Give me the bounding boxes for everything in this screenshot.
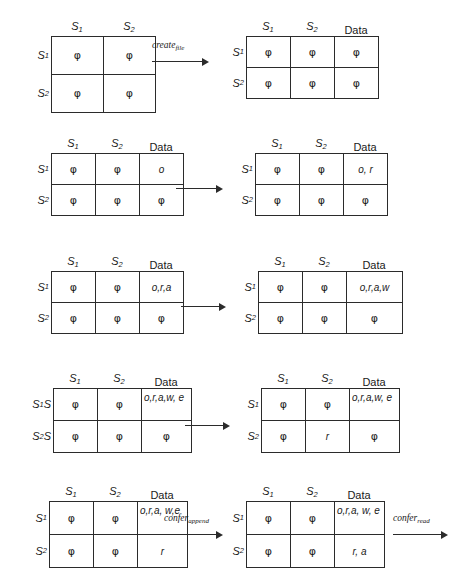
row-header: S2 [33,302,51,333]
row-header-group: S1 S2 [243,388,261,453]
row-header: S2 [240,302,258,333]
row-header-group: S1 S2 [228,36,246,99]
matrix-cell: o, r [344,154,388,185]
transition-arrow-2 [176,181,228,193]
matrix-cell: o,r,a [140,272,184,303]
matrix-row: φ φ o,r,a,w [259,272,403,303]
matrix-cell: φ [291,37,335,68]
matrix-cell: φ [50,535,94,568]
column-header: Data [141,376,191,388]
row-header: S1 [31,501,49,534]
matrix-cell: φ [96,154,140,185]
column-header: S1 [258,255,302,271]
row-header: S2 [237,184,255,215]
column-header: S2 [290,485,334,501]
matrix-cell: φ [247,502,291,535]
matrix-cell: φ [259,303,303,334]
grid-wrapper: S1 S2 φ φ o,r,a φ φ φ [33,271,184,334]
access-control-matrix: φ φ o,r,a,w φ φ φ [258,271,403,334]
row-header-group: S1 S2 [237,153,255,216]
grid-wrapper: S1 S2 φ φ o,r,a,w φ φ φ [240,271,403,334]
matrix-cell: φ [256,154,300,185]
matrix-cell: φ [262,421,306,453]
transition-arrow-4 [185,418,237,430]
row-header: S1 [228,36,246,67]
matrix-row: φ φ φ [247,37,379,68]
matrix-cell: o [140,154,184,185]
matrix-cell: φ [96,272,140,303]
matrix-cell: φ [52,185,96,216]
matrix-cell: φ [262,389,306,421]
transition-arrow-6: conferread [393,515,453,539]
column-header: S1 [51,20,103,36]
matrix-row: φ φ φ [247,68,379,99]
column-header: Data [334,24,378,36]
column-header: S1 [49,485,93,501]
row-header: S1 [237,153,255,184]
grid-wrapper: S1 S2 φ φ φ φ [33,36,156,113]
row-header: S1 [243,388,261,420]
arrow-head-icon [202,58,209,66]
matrix-row2-right: S1 S2 Data S1 S2 φ φ o, r φ φ [237,135,388,216]
matrix-cell: φ [142,421,192,453]
figure-canvas: S1 S2 S1 S2 φ φ φ φ [0,0,454,582]
column-header-group: S1 S2 Data [49,483,188,501]
arrow-head-icon [216,185,223,193]
matrix-cell: φ [335,37,379,68]
matrix-row: φ φ o,r,a,w, e [262,389,400,421]
column-header-group: S1 S2 Data [51,135,184,153]
matrix-row: φ φ [52,37,156,75]
arrow-head-icon [441,531,448,539]
row-header: S2 [228,67,246,98]
arrow-line [152,61,204,62]
row-header: S1 [228,501,246,534]
row-header: S2 [31,534,49,567]
transition-arrow-3 [181,299,233,311]
matrix-row5-right: S1 S2 Data S1 S2 φ φ o,r,a, w, e φ [228,483,385,568]
arrow-line [176,188,218,189]
row-header: S2S [27,420,53,452]
column-header: S2 [95,255,139,271]
matrix-row: φ φ φ [256,185,388,216]
row-header: S1 [240,271,258,302]
row-header-group: S1 S2 [33,36,51,113]
grid-wrapper: S1 S2 φ φ o φ φ φ [33,153,184,216]
row-header-group: S1 S2 [240,271,258,334]
transition-arrow-5: conferappend [164,515,228,539]
matrix-cell: φ [350,421,400,453]
matrix-cell: φ [54,389,98,421]
arrow-head-icon [216,531,223,539]
grid-wrapper: S1 S2 φ φ φ φ φ φ [228,36,379,99]
column-header: Data [349,376,399,388]
matrix-cell: φ [52,303,96,334]
access-control-matrix: φ φ φ φ φ φ [246,36,379,99]
grid-wrapper: S1S S2S φ φ o,r,a,w, e φ φ φ [27,388,192,453]
arrow-line [185,425,225,426]
matrix-cell: φ [52,75,104,113]
row-header-group: S1 S2 [228,501,246,568]
matrix-row: φ φ φ [259,303,403,334]
matrix-row: φ φ o,r,a, w, e [247,502,385,535]
matrix-cell: φ [306,389,350,421]
matrix-cell: φ [140,303,184,334]
arrow-line [164,534,218,535]
matrix-cell: φ [94,502,138,535]
column-header: Data [346,259,402,271]
column-header: S2 [103,20,155,36]
arrow-label: conferread [393,513,430,525]
matrix-cell: φ [104,75,156,113]
column-header-group: S1 S2 Data [246,18,379,36]
matrix-cell: φ [300,185,344,216]
matrix-row3-left: S1 S2 Data S1 S2 φ φ o,r,a φ φ [33,253,184,334]
matrix-cell: φ [104,37,156,75]
matrix-row4-right: S1 S2 Data S1 S2 φ φ o,r,a,w, e φ [243,370,400,453]
column-header-group: S1 S2 Data [258,253,403,271]
row-header: S1 [33,153,51,184]
grid-wrapper: S1 S2 φ φ o,r,a,w, e φ r φ [243,388,400,453]
arrow-line [181,306,221,307]
column-header: S1 [51,137,95,153]
arrow-label: createfile [152,40,184,52]
matrix-cell: φ [52,154,96,185]
column-header-group: S1 S2 Data [261,370,400,388]
arrow-head-icon [223,422,230,430]
